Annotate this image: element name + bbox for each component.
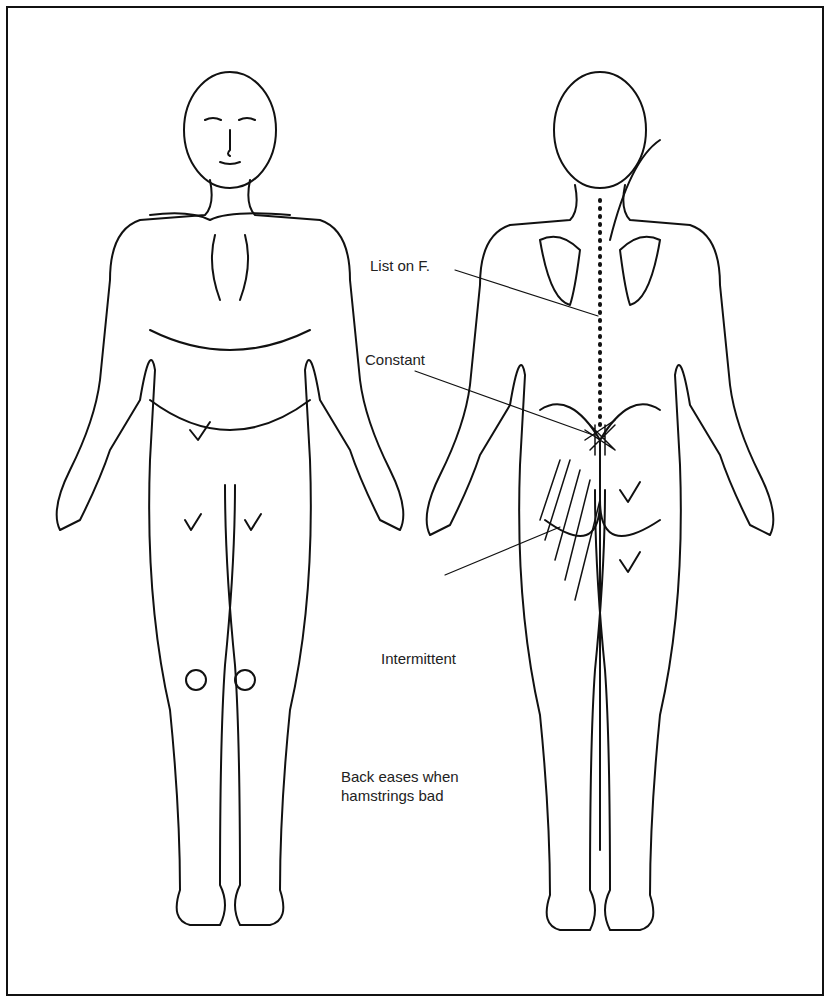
note-line-2: hamstrings bad	[341, 786, 444, 805]
label-intermittent: Intermittent	[381, 649, 456, 668]
label-constant: Constant	[365, 350, 425, 369]
label-list-on-f: List on F.	[370, 256, 430, 275]
body-chart-drawing	[0, 0, 832, 1008]
note-line-1: Back eases when	[341, 767, 459, 786]
